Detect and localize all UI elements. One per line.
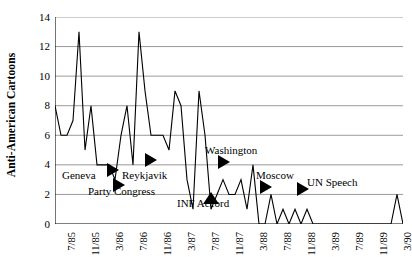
- x-axis-tick-label-text: 3/88: [259, 232, 269, 251]
- x-axis-tick-label: 3/86: [110, 232, 120, 270]
- x-axis-tick-label-text: 11/86: [163, 232, 173, 256]
- x-axis-tick-label-text: 11/89: [379, 232, 389, 256]
- y-axis-tick-label: 12: [28, 41, 50, 52]
- x-axis-tick-label: 7/86: [134, 232, 144, 270]
- x-axis-tick-label: 7/87: [206, 232, 216, 270]
- x-axis-tick-label: 3/90: [398, 232, 408, 270]
- x-axis-tick-label-text: 3/90: [403, 232, 412, 251]
- x-axis-tick-labels: 7/8511/853/867/8611/863/877/8711/873/887…: [55, 232, 403, 271]
- y-axis-tick-labels: 02468101214: [26, 0, 50, 271]
- annotation-label-washington: Washington: [205, 145, 257, 156]
- annotation-label-reykjavik: Reykjavik: [122, 170, 167, 181]
- y-axis-tick-label: 4: [28, 159, 50, 170]
- y-axis-tick-label: 0: [28, 219, 50, 230]
- y-axis-tick-label: 6: [28, 130, 50, 141]
- x-axis-tick-label: 11/88: [302, 232, 312, 270]
- x-axis-tick-label: 11/89: [374, 232, 384, 270]
- annotation-marker-washington: [218, 155, 230, 169]
- annotation-marker-un-speech: [297, 182, 309, 196]
- annotation-marker-moscow: [260, 180, 272, 194]
- x-axis-tick-label-text: 7/85: [67, 232, 77, 251]
- x-axis-tick-label: 3/87: [182, 232, 192, 270]
- x-axis-tick-label: 11/86: [158, 232, 168, 270]
- x-axis-tick-label: 7/85: [62, 232, 72, 270]
- x-axis-tick-label-text: 11/87: [235, 232, 245, 256]
- x-axis-tick-label: 7/88: [278, 232, 288, 270]
- chart-figure: Anti-American Cartoons 02468101214 7/851…: [0, 0, 412, 271]
- x-axis-tick-label: 11/85: [86, 232, 96, 270]
- y-axis-tick-label: 10: [28, 71, 50, 82]
- annotation-marker-inf-accord: [203, 192, 219, 204]
- annotation-label-un-speech: UN Speech: [307, 177, 357, 188]
- x-axis-tick-label-text: 3/87: [187, 232, 197, 251]
- x-axis-tick-label: 3/88: [254, 232, 264, 270]
- x-axis-tick-label-text: 7/86: [139, 232, 149, 251]
- y-axis-tick-label: 2: [28, 189, 50, 200]
- x-axis-tick-label-text: 3/86: [115, 232, 125, 251]
- x-axis-tick-label-text: 7/87: [211, 232, 221, 251]
- annotation-marker-reykjavik: [145, 153, 157, 167]
- x-axis-tick-label-text: 7/88: [283, 232, 293, 251]
- x-axis-tick-label: 11/87: [230, 232, 240, 270]
- y-axis-title-text: Anti-American Cartoons: [5, 53, 17, 178]
- annotation-marker-geneva: [107, 163, 119, 177]
- y-axis-tick-label: 14: [28, 12, 50, 23]
- y-axis-tick-label: 8: [28, 100, 50, 111]
- x-axis-tick-label: 3/89: [326, 232, 336, 270]
- x-axis-tick-label-text: 11/85: [91, 232, 101, 256]
- x-axis-tick-label: 7/89: [350, 232, 360, 270]
- x-axis-tick-label-text: 7/89: [355, 232, 365, 251]
- y-axis-title: Anti-American Cartoons: [0, 0, 22, 230]
- x-axis-tick-label-text: 3/89: [331, 232, 341, 251]
- annotation-label-geneva: Geneva: [62, 170, 96, 181]
- x-axis-tick-label-text: 11/88: [307, 232, 317, 256]
